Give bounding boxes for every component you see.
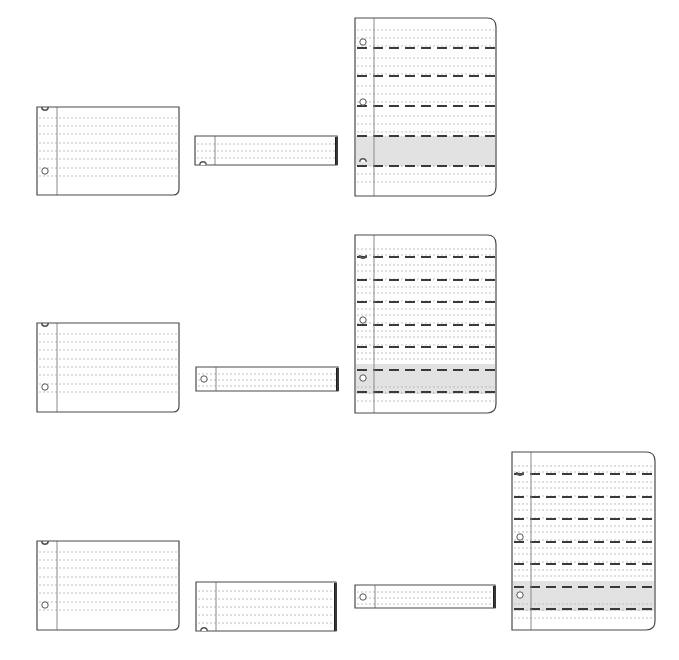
- sheet-fill: [196, 367, 338, 391]
- landscape-card: [37, 107, 179, 195]
- punch-hole-icon: [360, 159, 366, 162]
- punch-hole-icon: [360, 594, 366, 600]
- punch-hole-icon: [201, 628, 207, 631]
- strip: [196, 367, 339, 391]
- portrait-sheet: [512, 452, 655, 630]
- punch-hole-icon: [360, 99, 366, 105]
- sheet-fill: [37, 323, 179, 412]
- strip: [195, 136, 338, 165]
- landscape-card: [37, 323, 179, 412]
- sheet-fill: [37, 541, 179, 630]
- strip: [196, 582, 337, 631]
- sheet-fill: [195, 136, 337, 165]
- highlight-band: [513, 581, 654, 611]
- highlight-band: [356, 364, 495, 394]
- row-3: [37, 452, 655, 631]
- portrait-sheet: [355, 235, 496, 413]
- punch-hole-icon: [42, 168, 48, 174]
- punch-hole-icon: [360, 375, 366, 381]
- lined-paper-diagram: [0, 0, 679, 660]
- punch-hole-icon: [360, 39, 366, 45]
- sheet-fill: [196, 582, 336, 631]
- punch-hole-icon: [517, 534, 523, 540]
- portrait-sheet: [355, 18, 496, 196]
- highlight-band: [356, 136, 495, 166]
- punch-hole-icon: [42, 384, 48, 390]
- punch-hole-icon: [201, 376, 207, 382]
- row-1: [37, 18, 496, 196]
- punch-hole-icon: [360, 317, 366, 323]
- punch-hole-icon: [42, 602, 48, 608]
- sheet-fill: [355, 18, 496, 196]
- sheet-fill: [355, 585, 495, 608]
- row-2: [37, 235, 496, 413]
- punch-hole-icon: [517, 592, 523, 598]
- landscape-card: [37, 541, 179, 630]
- punch-hole-icon: [200, 162, 206, 165]
- strip: [355, 585, 496, 608]
